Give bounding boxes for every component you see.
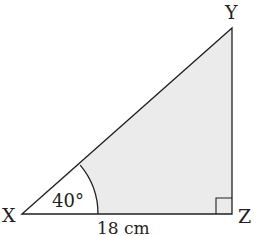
angle-label: 40° <box>52 190 84 211</box>
base-length-label: 18 cm <box>97 218 150 236</box>
vertex-label-x: X <box>2 204 16 226</box>
vertex-label-z: Z <box>238 205 251 227</box>
vertex-label-y: Y <box>224 1 238 23</box>
triangle-diagram: X Y Z 40° 18 cm <box>0 0 263 236</box>
